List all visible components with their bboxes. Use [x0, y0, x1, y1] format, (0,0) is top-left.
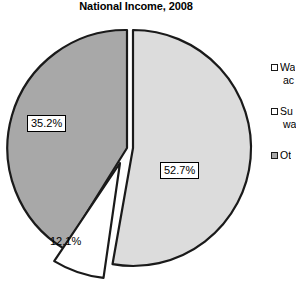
- pie-slice-wages[interactable]: [113, 30, 252, 266]
- slice-label-supplements: 35.2%: [27, 115, 66, 132]
- legend-swatch-icon: [271, 108, 278, 115]
- legend-item-supplements[interactable]: Su wa: [271, 105, 304, 131]
- slice-label-wages: 52.7%: [160, 162, 199, 179]
- legend-swatch-icon: [271, 64, 278, 71]
- chart-title: National Income, 2008: [0, 0, 272, 13]
- pie-chart-figure: National Income, 2008 52.7% 35.2% 12.1% …: [0, 0, 304, 282]
- chart-legend: Wa ac Su wa Ot: [271, 61, 304, 180]
- slice-label-other: 12.1%: [50, 235, 81, 247]
- legend-label-supplements: Su wa: [280, 105, 296, 131]
- legend-item-wages[interactable]: Wa ac: [271, 61, 304, 87]
- legend-item-other[interactable]: Ot: [271, 149, 304, 162]
- pie-plot-area: 52.7% 35.2% 12.1%: [0, 14, 262, 282]
- legend-label-other: Ot: [280, 149, 291, 162]
- pie-svg: [0, 14, 262, 282]
- legend-label-wages: Wa ac: [280, 61, 295, 87]
- legend-swatch-icon: [271, 152, 278, 159]
